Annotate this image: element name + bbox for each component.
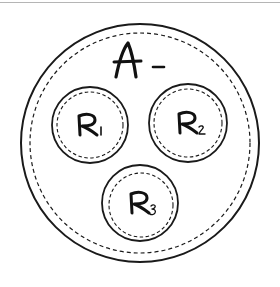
nested-circles-diagram: A - R 1 R 2 R 3 [0,0,280,287]
outer-label-a-crossbar [114,61,141,62]
circle-r1: R 1 [0,0,128,163]
